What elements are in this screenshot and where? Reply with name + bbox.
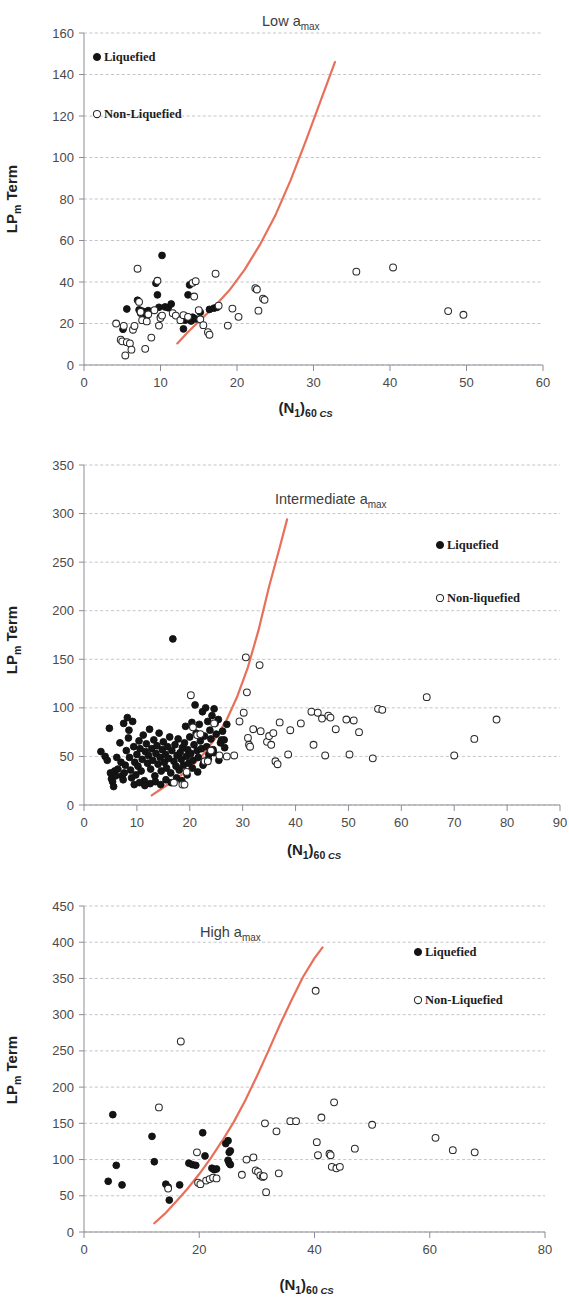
x-axis-title: (N1)60 CS (287, 841, 342, 861)
data-point-nonliquefied (134, 265, 141, 272)
data-point-liquefied (202, 704, 209, 711)
data-point-liquefied (192, 702, 199, 709)
data-point-liquefied (113, 754, 120, 761)
x-tick-label: 50 (459, 375, 473, 390)
data-point-liquefied (167, 770, 174, 777)
legend-label-liquefied: Liquefied (104, 50, 155, 64)
data-point-liquefied (117, 739, 124, 746)
data-point-nonliquefied (235, 313, 242, 320)
data-point-liquefied (186, 734, 193, 741)
data-point-nonliquefied (346, 751, 353, 758)
data-point-liquefied (129, 718, 136, 725)
data-point-liquefied (120, 720, 127, 727)
legend-marker-liquefied (436, 541, 443, 548)
data-point-nonliquefied (128, 346, 135, 353)
data-point-nonliquefied (236, 718, 243, 725)
panel-title: High amax (200, 924, 261, 943)
data-point-nonliquefied (181, 781, 188, 788)
data-point-nonliquefied (260, 1173, 267, 1180)
y-tick-label: 160 (52, 26, 74, 41)
data-point-nonliquefied (297, 720, 304, 727)
data-point-liquefied (119, 1182, 126, 1189)
data-point-nonliquefied (156, 1104, 163, 1111)
data-point-liquefied (206, 727, 213, 734)
data-point-liquefied (151, 1158, 158, 1165)
data-point-liquefied (182, 723, 189, 730)
data-point-nonliquefied (313, 1139, 320, 1146)
data-point-nonliquefied (192, 278, 199, 285)
panel-title: Intermediate amax (275, 491, 387, 510)
data-point-nonliquefied (285, 751, 292, 758)
data-point-nonliquefied (274, 761, 281, 768)
data-point-liquefied (195, 754, 202, 761)
y-tick-label: 50 (60, 749, 74, 764)
data-point-liquefied (125, 735, 132, 742)
data-point-nonliquefied (154, 277, 161, 284)
data-point-liquefied (202, 1153, 209, 1160)
data-point-nonliquefied (369, 755, 376, 762)
data-point-nonliquefied (208, 747, 215, 754)
data-point-nonliquefied (183, 769, 190, 776)
panel-low-amax: 0204060801001201401600102030405060Low am… (0, 0, 569, 432)
data-point-nonliquefied (353, 268, 360, 275)
data-point-nonliquefied (356, 729, 363, 736)
chart-high-amax: 050100150200250300350400450020406080High… (0, 876, 569, 1298)
legend-label-nonliquefied: Non-Liquefied (425, 993, 503, 1007)
data-point-nonliquefied (156, 322, 163, 329)
x-tick-label: 40 (307, 1242, 321, 1257)
data-point-liquefied (192, 1162, 199, 1169)
data-point-liquefied (106, 725, 113, 732)
data-point-nonliquefied (460, 311, 467, 318)
data-point-nonliquefied (229, 305, 236, 312)
data-point-nonliquefied (250, 726, 257, 733)
x-tick-label: 20 (230, 375, 244, 390)
data-point-nonliquefied (253, 286, 260, 293)
data-point-liquefied (227, 1161, 234, 1168)
data-point-nonliquefied (242, 654, 249, 661)
data-point-nonliquefied (122, 352, 129, 359)
data-point-nonliquefied (369, 1121, 376, 1128)
data-point-nonliquefied (250, 1154, 257, 1161)
data-point-liquefied (180, 325, 187, 332)
data-point-liquefied (221, 744, 228, 751)
data-point-nonliquefied (263, 1189, 270, 1196)
data-point-nonliquefied (243, 1156, 250, 1163)
legend-marker-liquefied (93, 53, 100, 60)
data-point-nonliquefied (190, 724, 197, 731)
legend-label-nonliquefied: Non-liquefied (447, 591, 520, 605)
data-point-liquefied (140, 732, 147, 739)
data-point-liquefied (104, 757, 111, 764)
data-point-nonliquefied (197, 731, 204, 738)
y-tick-label: 100 (52, 700, 74, 715)
data-point-liquefied (126, 727, 133, 734)
data-point-liquefied (110, 783, 117, 790)
data-point-nonliquefied (120, 323, 127, 330)
y-tick-label: 250 (52, 555, 74, 570)
data-point-liquefied (146, 726, 153, 733)
data-point-liquefied (176, 1182, 183, 1189)
x-tick-label: 10 (130, 815, 144, 830)
data-point-nonliquefied (171, 779, 178, 786)
y-tick-label: 60 (60, 233, 74, 248)
data-point-liquefied (181, 739, 188, 746)
data-point-nonliquefied (423, 694, 430, 701)
data-point-nonliquefied (137, 308, 144, 315)
data-point-liquefied (213, 731, 220, 738)
legend-marker-nonliquefied (414, 996, 421, 1003)
y-axis-title: LPm Term (3, 606, 23, 674)
data-point-nonliquefied (187, 692, 194, 699)
data-point-nonliquefied (293, 1118, 300, 1125)
data-point-nonliquefied (275, 1170, 282, 1177)
x-tick-label: 40 (288, 815, 302, 830)
data-point-nonliquefied (244, 689, 251, 696)
x-tick-label: 10 (153, 375, 167, 390)
x-tick-label: 80 (538, 1242, 552, 1257)
data-point-nonliquefied (245, 735, 252, 742)
data-point-nonliquefied (185, 313, 192, 320)
data-point-liquefied (112, 772, 119, 779)
data-point-nonliquefied (351, 1145, 358, 1152)
data-point-nonliquefied (270, 730, 277, 737)
data-point-nonliquefied (451, 752, 458, 759)
data-point-nonliquefied (261, 296, 268, 303)
data-point-nonliquefied (212, 270, 219, 277)
